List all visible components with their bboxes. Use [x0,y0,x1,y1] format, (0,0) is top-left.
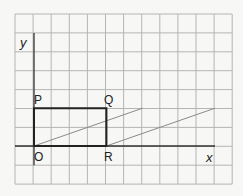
vertex-label-o: O [34,150,43,164]
vertex-label-p: P [34,93,42,107]
vertex-label-q: Q [104,93,113,107]
coordinate-grid-diagram: y x P Q O R [0,0,243,196]
grid-lines [15,14,232,184]
y-axis-label: y [19,35,28,50]
x-axis-label: x [205,150,213,165]
vertex-label-r: R [104,150,113,164]
